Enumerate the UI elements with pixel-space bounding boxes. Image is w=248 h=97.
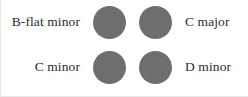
key-pairs-figure: B-flat minor C major C minor D minor: [0, 0, 248, 97]
key-label-bottom-right: D minor: [185, 59, 248, 75]
dot-top-right: [139, 6, 172, 39]
key-label-top-left: B-flat minor: [1, 14, 80, 30]
dot-bottom-right: [139, 51, 172, 84]
dot-bottom-left: [93, 51, 126, 84]
key-label-top-right: C major: [185, 14, 248, 30]
key-label-bottom-left: C minor: [1, 59, 80, 75]
dot-top-left: [93, 6, 126, 39]
